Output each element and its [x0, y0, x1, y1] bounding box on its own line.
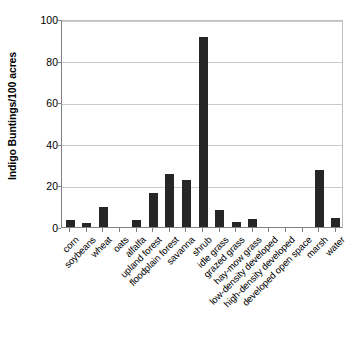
- bar[interactable]: [331, 218, 340, 227]
- plot-area: [61, 20, 343, 228]
- bar[interactable]: [82, 223, 91, 227]
- x-tick-mark: [86, 228, 87, 232]
- x-tick-mark: [119, 228, 120, 232]
- bar[interactable]: [99, 207, 108, 227]
- bar[interactable]: [182, 180, 191, 227]
- x-tick-mark: [202, 228, 203, 232]
- gridline: [62, 21, 342, 22]
- y-tick-label: 40: [28, 139, 58, 151]
- x-tick-mark: [285, 228, 286, 232]
- x-tick-mark: [185, 228, 186, 232]
- x-tick-mark: [69, 228, 70, 232]
- x-tick-mark: [235, 228, 236, 232]
- bar[interactable]: [66, 220, 75, 227]
- y-tick-label: 20: [28, 180, 58, 192]
- y-tick-label: 100: [28, 14, 58, 26]
- bar[interactable]: [132, 220, 141, 227]
- bar[interactable]: [149, 193, 158, 227]
- y-tick-label: 0: [28, 222, 58, 234]
- chart-figure: Indigo Buntings/100 acres 020406080100 c…: [0, 0, 354, 348]
- x-tick-mark: [268, 228, 269, 232]
- bar[interactable]: [165, 174, 174, 227]
- y-axis-title: Indigo Buntings/100 acres: [0, 0, 24, 232]
- x-tick-mark: [102, 228, 103, 232]
- bar[interactable]: [215, 210, 224, 227]
- bar[interactable]: [232, 222, 241, 227]
- x-tick-mark: [252, 228, 253, 232]
- bar[interactable]: [315, 170, 324, 227]
- y-tick-label: 60: [28, 97, 58, 109]
- x-tick-mark: [302, 228, 303, 232]
- y-axis-title-text: Indigo Buntings/100 acres: [6, 52, 18, 180]
- bar[interactable]: [199, 37, 208, 227]
- x-tick-mark: [169, 228, 170, 232]
- x-tick-mark: [219, 228, 220, 232]
- x-tick-mark: [335, 228, 336, 232]
- x-tick-mark: [318, 228, 319, 232]
- y-tick-label: 80: [28, 56, 58, 68]
- x-tick-mark: [136, 228, 137, 232]
- bar[interactable]: [248, 219, 257, 227]
- y-tick-mark: [56, 228, 61, 229]
- x-tick-mark: [152, 228, 153, 232]
